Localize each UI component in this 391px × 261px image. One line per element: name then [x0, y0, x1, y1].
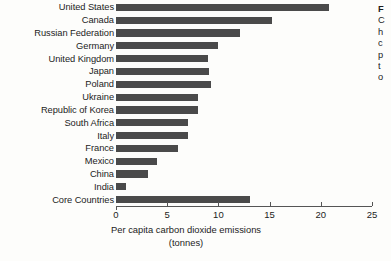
bar	[116, 55, 208, 62]
category-label: China	[0, 169, 114, 179]
bar-track	[116, 142, 372, 155]
category-label: France	[0, 143, 114, 153]
bar-track	[116, 52, 372, 65]
bar	[116, 42, 218, 49]
category-label: Italy	[0, 131, 114, 141]
bar-track	[116, 104, 372, 117]
category-label: Russian Federation	[0, 28, 114, 38]
x-axis-tick-label: 10	[213, 209, 224, 221]
bar-track	[116, 168, 372, 181]
bar-track	[116, 91, 372, 104]
category-label: Canada	[0, 15, 114, 25]
bar	[116, 132, 188, 139]
bar-track	[116, 155, 372, 168]
bar-row: Mexico	[0, 155, 372, 168]
bar-track	[116, 39, 372, 52]
bar-row: Republic of Korea	[0, 104, 372, 117]
x-axis-tick-label: 5	[165, 209, 170, 221]
chart-plot-area: United StatesCanadaRussian FederationGer…	[0, 0, 372, 205]
bar-row: Poland	[0, 78, 372, 91]
bar-row: Italy	[0, 129, 372, 142]
bar-track	[116, 180, 372, 193]
bar-track	[116, 78, 372, 91]
category-label: Ukraine	[0, 92, 114, 102]
bar-row: India	[0, 180, 372, 193]
bar-track	[116, 129, 372, 142]
category-label: Mexico	[0, 156, 114, 166]
side-caption-title: F	[378, 4, 391, 15]
bar	[116, 119, 188, 126]
bar	[116, 29, 240, 36]
bar	[116, 158, 157, 165]
bar	[116, 106, 198, 113]
side-caption-line: o	[378, 72, 391, 83]
bar	[116, 94, 198, 101]
bar-row: Core Countries	[0, 193, 372, 206]
side-caption-line: c	[378, 38, 391, 49]
side-caption-line: h	[378, 27, 391, 38]
bar	[116, 68, 209, 75]
category-label: Germany	[0, 41, 114, 51]
bar-track	[116, 1, 372, 14]
x-axis-tick	[167, 202, 168, 206]
bar-track	[116, 27, 372, 40]
bar-row: United States	[0, 1, 372, 14]
category-label: United Kingdom	[0, 54, 114, 64]
category-label: South Africa	[0, 118, 114, 128]
x-axis	[116, 206, 372, 207]
category-label: Japan	[0, 66, 114, 76]
x-axis-tick-label: 20	[316, 209, 327, 221]
x-axis-tick-label: 25	[367, 209, 378, 221]
side-caption-line: p	[378, 50, 391, 61]
bar-track	[116, 65, 372, 78]
x-axis-tick	[218, 202, 219, 206]
bar	[116, 145, 178, 152]
x-axis-tick	[270, 202, 271, 206]
x-axis-tick-label: 15	[264, 209, 275, 221]
x-axis-title-text: Per capita carbon dioxide emissions	[111, 224, 261, 235]
x-axis-tick-label: 0	[113, 209, 118, 221]
bar-track	[116, 14, 372, 27]
bar	[116, 4, 329, 11]
bar-row: Ukraine	[0, 91, 372, 104]
bar	[116, 196, 250, 203]
bar-chart: United StatesCanadaRussian FederationGer…	[0, 0, 372, 232]
category-label: India	[0, 182, 114, 192]
bar-track	[116, 193, 372, 206]
bar	[116, 81, 211, 88]
bar-row: Japan	[0, 65, 372, 78]
bar-row: United Kingdom	[0, 52, 372, 65]
bar-row: China	[0, 168, 372, 181]
x-axis-title: Per capita carbon dioxide emissions (ton…	[0, 224, 372, 249]
category-label: Poland	[0, 79, 114, 89]
bar	[116, 170, 148, 177]
bar-row: Canada	[0, 14, 372, 27]
bar-row: Germany	[0, 39, 372, 52]
x-axis-unit-text: (tonnes)	[0, 237, 372, 249]
bar	[116, 17, 272, 24]
side-caption-line: t	[378, 61, 391, 72]
bar-row: South Africa	[0, 116, 372, 129]
category-label: Republic of Korea	[0, 105, 114, 115]
bar-track	[116, 116, 372, 129]
x-axis-tick	[372, 202, 373, 206]
side-caption: F Chcpto	[378, 4, 391, 84]
x-axis-tick-labels: 0510152025	[116, 209, 372, 223]
bar-row: Russian Federation	[0, 27, 372, 40]
category-label: Core Countries	[0, 195, 114, 205]
side-caption-line: C	[378, 15, 391, 26]
category-label: United States	[0, 2, 114, 12]
figure: United StatesCanadaRussian FederationGer…	[0, 0, 391, 261]
bar	[116, 183, 126, 190]
x-axis-tick	[321, 202, 322, 206]
bar-row: France	[0, 142, 372, 155]
